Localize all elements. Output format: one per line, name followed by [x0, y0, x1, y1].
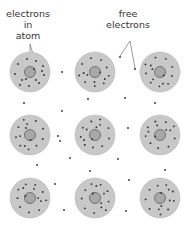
nucleus — [90, 193, 101, 204]
atom — [140, 178, 180, 218]
nucleus — [155, 193, 166, 204]
free-electron — [87, 98, 89, 100]
atom — [10, 115, 50, 155]
atoms-grid — [10, 52, 180, 218]
atom — [75, 178, 115, 218]
nucleus — [90, 130, 101, 141]
free-electron — [125, 210, 127, 212]
free-electron — [57, 135, 59, 137]
free-electron — [154, 102, 156, 104]
free-electron — [54, 183, 56, 185]
atom — [10, 52, 50, 92]
free-electron — [124, 97, 126, 99]
free-electron — [63, 209, 65, 211]
atom — [75, 52, 115, 92]
nucleus — [25, 193, 36, 204]
free-electron — [127, 127, 129, 129]
free-electron — [117, 158, 119, 160]
free-electron — [61, 110, 63, 112]
free-electron — [119, 56, 121, 58]
atom — [10, 178, 50, 218]
free-electron — [134, 68, 136, 70]
nucleus — [155, 130, 166, 141]
atom — [140, 52, 180, 92]
free-electron — [89, 170, 91, 172]
free-electron — [61, 71, 63, 73]
atom — [75, 115, 115, 155]
free-electron — [36, 164, 38, 166]
free-electron — [128, 179, 130, 181]
free-electron — [164, 169, 166, 171]
free-electron — [69, 157, 71, 159]
free-electron — [23, 102, 25, 104]
metal-lattice-diagram — [0, 0, 190, 233]
atom — [140, 115, 180, 155]
nucleus — [25, 130, 36, 141]
free-electron — [59, 140, 61, 142]
nucleus — [90, 67, 101, 78]
